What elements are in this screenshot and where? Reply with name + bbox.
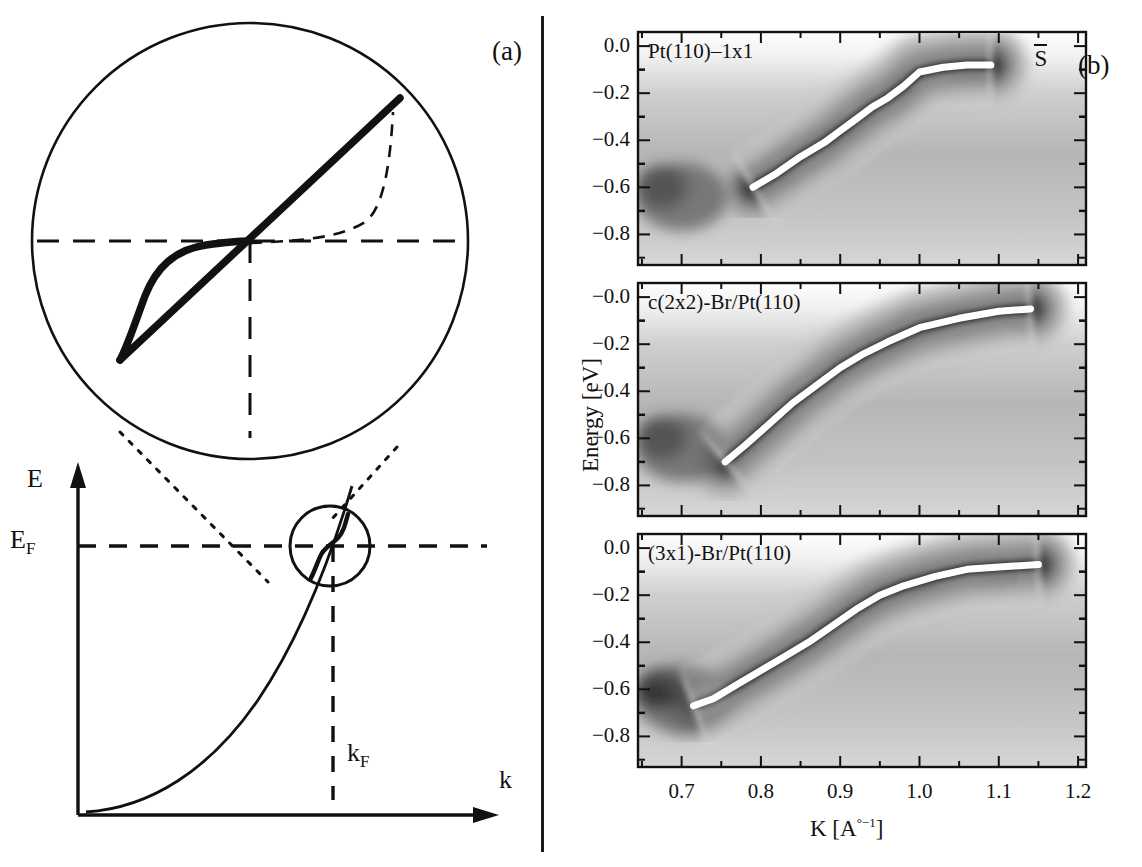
panel-title-2: c(2x2)-Br/Pt(110) <box>648 290 801 315</box>
arpes-maps-drawing <box>556 0 1142 867</box>
y-tick-label: −0.8 <box>560 723 630 748</box>
symmetry-point-label: S <box>1034 44 1047 72</box>
panel-title-1: Pt(110)–1x1 <box>648 39 753 64</box>
energy-axis-label: E <box>27 466 43 492</box>
x-tick-label: 1.2 <box>1048 779 1108 804</box>
y-tick-label: −0.6 <box>560 425 630 450</box>
y-tick-label: −0.4 <box>560 378 630 403</box>
momentum-axis-title: K [A°−1] <box>810 815 883 842</box>
kf-label-sub: F <box>360 752 369 771</box>
x-tick-label: 0.9 <box>810 779 870 804</box>
panel-divider <box>541 16 544 852</box>
diffuse-intensity <box>636 163 728 231</box>
energy-axis-title: Energy [eV] <box>578 358 604 472</box>
fermi-level-label: EF <box>10 527 35 557</box>
momentum-axis-title-close: ] <box>876 816 884 841</box>
kf-label: kF <box>347 740 369 770</box>
x-tick-label: 1.1 <box>969 779 1029 804</box>
y-tick-label: −0.2 <box>560 331 630 356</box>
y-tick-label: −0.4 <box>560 629 630 654</box>
y-tick-label: −0.8 <box>560 472 630 497</box>
y-tick-label: −0.6 <box>560 174 630 199</box>
symmetry-point-text: S <box>1034 44 1047 70</box>
y-tick-label: −0.2 <box>560 80 630 105</box>
energy-axis-arrow <box>70 462 86 488</box>
y-tick-label: 0.0 <box>560 33 630 58</box>
fermi-level-label-text: E <box>10 525 26 554</box>
momentum-axis-title-exponent: °−1 <box>857 815 876 830</box>
momentum-axis-title-main: K [A <box>810 816 857 841</box>
x-tick-label: 0.7 <box>652 779 712 804</box>
y-tick-label: −0.6 <box>560 676 630 701</box>
momentum-axis-arrow <box>473 807 499 823</box>
y-tick-label: −0.8 <box>560 221 630 246</box>
x-tick-label: 1.0 <box>889 779 949 804</box>
y-tick-label: 0.0 <box>560 535 630 560</box>
panel-a-drawing <box>0 0 540 867</box>
panel-b-arpes <box>556 0 1142 867</box>
fermi-level-label-sub: F <box>26 539 35 558</box>
panel-b-label: (b) <box>1078 52 1109 79</box>
panel-title-3: (3x1)-Br/Pt(110) <box>648 541 791 566</box>
y-tick-label: −0.2 <box>560 582 630 607</box>
y-tick-label: −0.4 <box>560 127 630 152</box>
panel-a-label: (a) <box>492 38 522 65</box>
momentum-axis-label: k <box>499 767 512 793</box>
x-tick-label: 0.8 <box>731 779 791 804</box>
projection-line-left <box>120 432 268 582</box>
panel-a-schematic: (a) E EF k kF <box>0 0 540 867</box>
y-tick-label: −0.0 <box>560 284 630 309</box>
parabolic-band <box>86 486 352 812</box>
kf-label-text: k <box>347 738 360 767</box>
inset-straight-band <box>120 98 400 360</box>
